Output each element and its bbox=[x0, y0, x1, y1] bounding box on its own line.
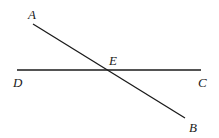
label-b: B bbox=[189, 120, 197, 135]
label-e: E bbox=[108, 53, 117, 68]
label-d: D bbox=[12, 75, 23, 90]
label-a: A bbox=[27, 7, 36, 22]
geometry-diagram: A E D C B bbox=[0, 0, 219, 138]
label-c: C bbox=[198, 75, 207, 90]
segment-ab bbox=[33, 24, 185, 118]
